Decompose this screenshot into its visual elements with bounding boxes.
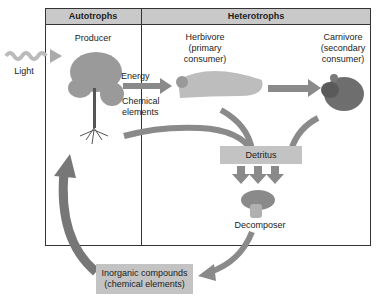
chemical-elements-label: Chemical elements	[122, 96, 168, 118]
mushroom-illustration	[241, 190, 275, 218]
herbivore-label: Herbivore (primary consumer)	[170, 32, 240, 65]
carnivore-line-3: consumer)	[312, 54, 374, 65]
herbivore-line-2: (primary	[170, 43, 240, 54]
light-wave-icon	[6, 53, 46, 59]
producer-label: Producer	[45, 33, 141, 44]
light-label: Light	[6, 66, 42, 77]
inorganic-line-2: (chemical elements)	[96, 279, 193, 290]
carnivore-line-2: (secondary	[312, 43, 374, 54]
inorganic-compounds-box: Inorganic compounds (chemical elements)	[96, 264, 193, 294]
chemical-line-1: Chemical	[122, 96, 168, 107]
herbivore-line-3: consumer)	[170, 54, 240, 65]
herbivore-line-1: Herbivore	[170, 32, 240, 43]
plant-illustration	[68, 52, 124, 144]
detritus-box: Detritus	[220, 146, 302, 164]
energy-label: Energy	[121, 71, 161, 82]
chemical-line-2: elements	[122, 107, 168, 118]
carnivore-label: Carnivore (secondary consumer)	[312, 32, 374, 65]
inorganic-line-1: Inorganic compounds	[96, 268, 193, 279]
decomposer-label: Decomposer	[225, 220, 295, 231]
caterpillar-illustration	[176, 71, 263, 98]
carnivore-line-1: Carnivore	[312, 32, 374, 43]
mouse-illustration	[321, 74, 364, 111]
